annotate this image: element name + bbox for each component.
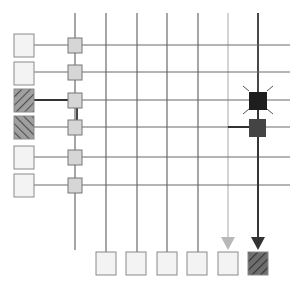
- spark-icon: [243, 109, 249, 114]
- bus-node: [68, 150, 82, 165]
- input-box: [14, 116, 34, 139]
- output-box: [126, 252, 146, 275]
- crossbar-diagram: [0, 0, 298, 287]
- bus-node: [68, 178, 82, 193]
- input-box: [14, 89, 34, 112]
- diagram-canvas: [0, 0, 298, 287]
- output-box: [218, 252, 238, 275]
- input-box: [14, 174, 34, 197]
- output-box: [248, 252, 268, 275]
- arrow-down-icon: [251, 237, 265, 250]
- active-node: [249, 92, 267, 110]
- output-box: [187, 252, 207, 275]
- bus-node: [68, 65, 82, 80]
- input-box: [14, 34, 34, 57]
- bus-node: [68, 120, 82, 135]
- bus-node: [68, 38, 82, 53]
- spark-icon: [267, 109, 273, 114]
- input-box: [14, 62, 34, 85]
- output-box: [157, 252, 177, 275]
- input-box: [14, 146, 34, 169]
- spark-icon: [267, 86, 273, 91]
- spark-icon: [243, 86, 249, 91]
- bus-node: [68, 93, 82, 108]
- active-node: [249, 119, 266, 137]
- output-box: [96, 252, 116, 275]
- arrow-down-icon: [221, 237, 235, 250]
